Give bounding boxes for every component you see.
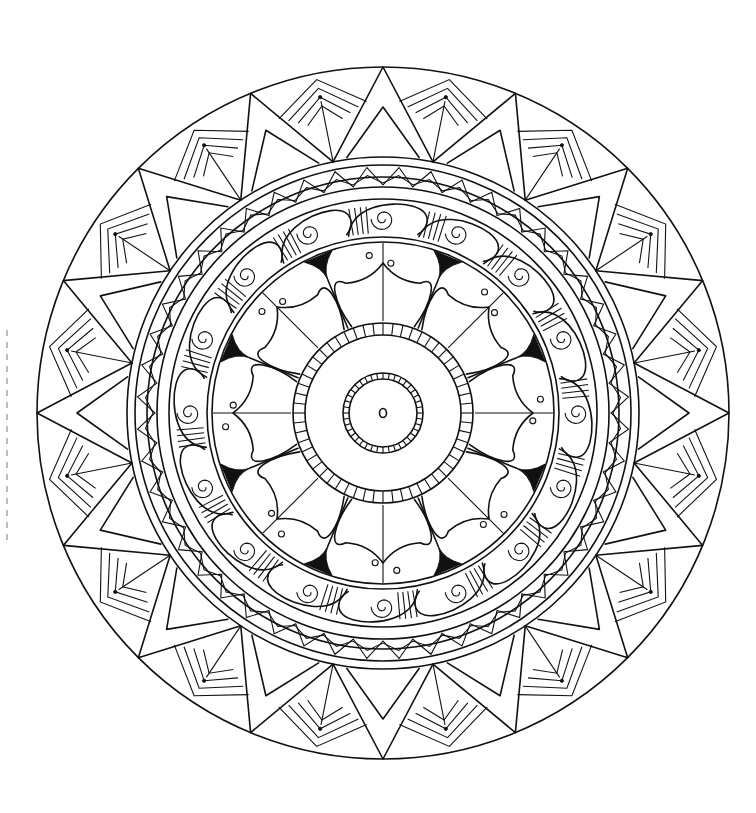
ring-segment-tick [294,403,306,404]
antenna-dot [114,590,117,593]
outer-spike-inner [447,635,514,696]
ring-segment-tick [307,365,317,371]
swirl-spiral [508,269,529,286]
core-segment-tick [398,443,401,448]
antenna-dot [697,349,700,352]
chevron-stripe [533,153,563,177]
core-segment-tick [343,407,349,408]
wave-hatch [428,213,435,239]
ring-segment-tick [313,357,322,364]
outer-spike-inner [447,130,514,191]
ring-segment-tick [457,439,468,443]
ring-segment-tick [409,487,413,498]
chevron-stripe [399,80,487,119]
core-segment-tick [345,401,351,403]
core-ring-inner [349,379,417,447]
swirl-spiral [234,269,255,286]
ring-segment-tick [363,489,366,501]
ring-segment-tick [344,332,349,343]
antenna-dot [319,727,322,730]
core-segment-tick [411,389,416,393]
ring-segment-tick [417,332,422,343]
swirl-spiral [192,332,213,349]
core-segment-tick [394,445,396,451]
wave-hatch [214,293,236,309]
antenna-dot [649,233,652,236]
wave-hatch [557,458,583,465]
petal-dot [530,418,536,424]
petal-dot [501,512,507,518]
ring-segment-tick [432,474,439,483]
wave-hatch [273,237,287,260]
core-segment-tick [413,428,418,431]
petal-dot [372,560,378,566]
ring-segment-tick [459,430,471,433]
core-segment-tick [407,437,411,441]
ring-segment-tick [432,343,439,352]
ring-segment-tick [344,483,349,494]
band-ring-outer [127,157,639,669]
page-edge-mark [6,330,8,540]
petal-dot [394,567,400,573]
ring-segment-tick [392,491,393,503]
antenna-dot [203,144,206,147]
chevron-stripe [203,153,233,177]
ring-segment-tick [353,328,357,339]
core-segment-tick [359,441,363,446]
core-segment-tick [403,381,407,386]
ring-segment-tick [319,349,327,357]
core-segment-tick [347,428,352,431]
outer-spike [333,67,433,162]
core-segment-tick [371,375,373,381]
chevron-stripe [677,309,716,397]
antenna-line [596,236,648,270]
wave-hatch [204,504,227,518]
swirl-spiral [550,480,571,497]
antenna-dot [444,727,447,730]
antenna-dot [66,349,69,352]
ring-segment-tick [461,422,473,423]
antenna-dot [114,233,117,236]
chevron-stripe [50,309,89,397]
outer-spike [525,555,627,657]
wave-hatch [254,553,271,574]
antenna-line [525,626,559,678]
wave-hatch [492,248,508,270]
ring-segment-tick [295,393,307,396]
chevron-stripe [115,224,147,268]
chevron-stripe [620,563,644,593]
chevron-stripe [194,648,238,680]
ring-segment-tick [438,349,446,357]
petal-dot [280,299,286,305]
core-segment-tick [377,447,378,453]
ring-segment-tick [298,383,309,387]
wave-hatch [258,557,274,579]
chevron-stripe [123,233,147,263]
band-ring-2 [135,165,631,661]
ring-segment-tick [409,328,413,339]
antenna-dot [444,96,447,99]
outer-spike [37,363,132,463]
wave-hatch [561,385,588,389]
mandala-svg [0,0,756,813]
core-segment-tick [345,424,351,426]
core-segment-tick [407,385,411,389]
antenna-dot [697,474,700,477]
wave-hatch [527,522,549,538]
chevron-stripe [203,650,233,674]
zigzag-band [138,168,629,659]
swirl-spiral [192,480,213,497]
ring-segment-tick [327,343,334,352]
ring-segment-tick [444,462,453,469]
core-segment-tick [351,433,356,437]
wave-hatch [218,288,240,304]
chevron-stripe [279,707,367,746]
core-segment-tick [411,433,416,437]
wave-hatch [478,566,492,589]
wave-hatch [538,308,561,322]
swirl-spiral [445,227,466,244]
ring-segment-tick [302,447,313,452]
outer-spike-inner [605,477,666,544]
petal-dot [230,402,236,408]
outer-spike-inner [100,477,161,544]
